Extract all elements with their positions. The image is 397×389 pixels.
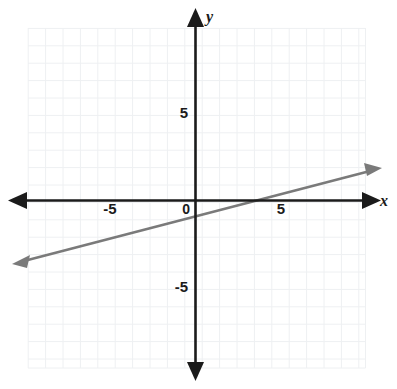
y-axis-arrow-up bbox=[187, 8, 204, 27]
y-axis-arrow-down bbox=[187, 362, 204, 381]
y-tick-label-negative-5: -5 bbox=[175, 278, 188, 295]
x-axis-name: x bbox=[379, 192, 388, 209]
y-axis-name: y bbox=[204, 8, 214, 26]
plot-line-segment bbox=[22, 171, 372, 262]
plot-line-arrow-right bbox=[364, 163, 382, 176]
graph-canvas: y x -5 5 5 -5 0 bbox=[0, 0, 397, 389]
origin-label: 0 bbox=[182, 201, 190, 217]
y-tick-label-positive-5: 5 bbox=[180, 104, 188, 121]
plot-line-arrow-left bbox=[12, 255, 30, 268]
axes bbox=[8, 8, 381, 381]
coordinate-plane-figure: y x -5 5 5 -5 0 bbox=[0, 0, 397, 389]
x-axis-arrow-right bbox=[362, 192, 381, 209]
x-tick-label-positive-5: 5 bbox=[277, 200, 285, 217]
x-tick-label-negative-5: -5 bbox=[103, 200, 116, 217]
plotted-line-series bbox=[12, 163, 382, 268]
x-axis-arrow-left bbox=[8, 192, 27, 209]
